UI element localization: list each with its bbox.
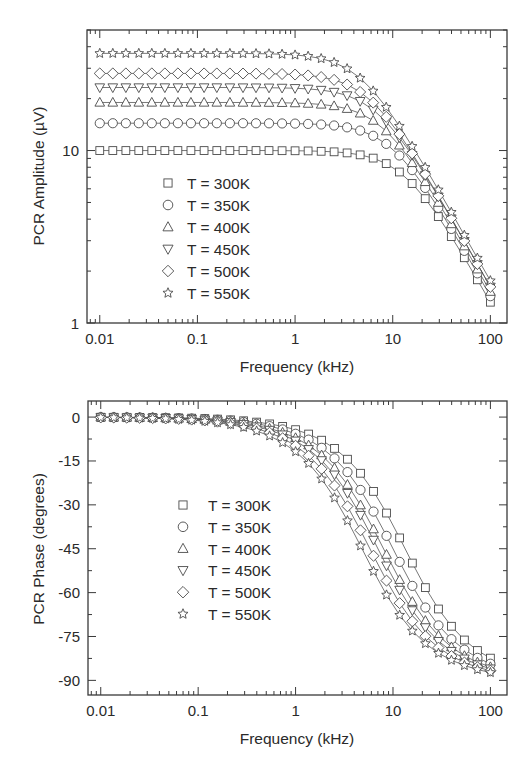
- triangle-down-marker-icon: [160, 84, 170, 93]
- square-marker-icon: [239, 147, 247, 155]
- diamond-marker-icon: [290, 69, 301, 80]
- series-line: [100, 88, 491, 287]
- legend-label: T = 400K: [208, 541, 272, 558]
- triangle-down-marker-icon: [108, 84, 118, 93]
- triangle-up-marker-icon: [160, 97, 170, 106]
- square-marker-icon: [344, 455, 352, 463]
- star-marker-icon: [330, 493, 340, 502]
- triangle-down-marker-icon: [95, 84, 105, 93]
- y-tick-label: -90: [58, 672, 80, 689]
- diamond-marker-icon: [185, 68, 196, 79]
- square-marker-icon: [421, 584, 429, 592]
- star-marker-icon: [121, 48, 131, 57]
- triangle-up-marker-icon: [408, 597, 418, 606]
- circle-marker-icon: [369, 507, 378, 516]
- diamond-marker-icon: [94, 68, 105, 79]
- circle-marker-icon: [317, 120, 326, 129]
- circle-marker-icon: [264, 119, 273, 128]
- square-marker-icon: [408, 559, 416, 567]
- star-marker-icon: [238, 48, 248, 57]
- triangle-up-marker-icon: [186, 97, 196, 106]
- square-marker-icon: [357, 469, 365, 477]
- square-marker-icon: [179, 501, 187, 509]
- circle-marker-icon: [238, 119, 247, 128]
- legend-label: T = 300K: [208, 497, 272, 514]
- triangle-up-marker-icon: [147, 97, 157, 106]
- square-marker-icon: [370, 487, 378, 495]
- x-tick-label: 1: [291, 330, 299, 347]
- square-marker-icon: [226, 147, 234, 155]
- y-tick-label: -60: [58, 584, 80, 601]
- y-axis-title: PCR Phase (degrees): [30, 473, 47, 625]
- square-marker-icon: [395, 168, 403, 176]
- star-marker-icon: [343, 516, 353, 525]
- triangle-up-marker-icon: [199, 97, 209, 106]
- diamond-marker-icon: [329, 480, 340, 491]
- circle-marker-icon: [434, 621, 443, 630]
- triangle-up-marker-icon: [369, 524, 379, 533]
- circle-marker-icon: [290, 119, 299, 128]
- triangle-up-marker-icon: [355, 108, 365, 117]
- triangle-up-marker-icon: [108, 97, 118, 106]
- triangle-down-marker-icon: [264, 84, 274, 93]
- circle-marker-icon: [356, 485, 365, 494]
- square-marker-icon: [304, 147, 312, 155]
- circle-marker-icon: [95, 119, 104, 128]
- star-marker-icon: [407, 141, 417, 150]
- star-marker-icon: [186, 48, 196, 57]
- star-marker-icon: [395, 121, 405, 130]
- diamond-marker-icon: [355, 86, 366, 97]
- y-axis-title: PCR Amplitude (µV): [30, 106, 47, 245]
- star-marker-icon: [147, 48, 157, 57]
- series-line: [100, 102, 491, 291]
- square-marker-icon: [148, 147, 156, 155]
- circle-marker-icon: [186, 119, 195, 128]
- circle-marker-icon: [163, 200, 173, 210]
- triangle-down-marker-icon: [121, 84, 131, 93]
- y-tick-label: -45: [58, 540, 80, 557]
- diamond-marker-icon: [250, 68, 261, 79]
- square-marker-icon: [383, 509, 391, 517]
- legend-label: T = 500K: [187, 263, 251, 280]
- circle-marker-icon: [277, 119, 286, 128]
- star-marker-icon: [251, 49, 261, 58]
- series-line: [101, 417, 491, 670]
- star-marker-icon: [356, 541, 366, 550]
- square-marker-icon: [265, 147, 273, 155]
- square-marker-icon: [356, 151, 364, 159]
- x-tick-label: 100: [478, 702, 503, 719]
- star-marker-icon: [290, 50, 300, 59]
- triangle-up-marker-icon: [121, 97, 131, 106]
- triangle-down-marker-icon: [238, 84, 248, 93]
- triangle-down-marker-icon: [355, 97, 365, 106]
- square-marker-icon: [135, 147, 143, 155]
- triangle-up-marker-icon: [173, 97, 183, 106]
- circle-marker-icon: [212, 119, 221, 128]
- diamond-marker-icon: [303, 70, 314, 81]
- square-marker-icon: [331, 444, 339, 452]
- square-marker-icon: [200, 147, 208, 155]
- y-tick-label: 1: [71, 315, 79, 332]
- tick-labels: 0.010.1110100110: [62, 142, 503, 347]
- diamond-marker-icon: [355, 525, 366, 536]
- y-tick-label: -30: [58, 496, 80, 513]
- circle-marker-icon: [121, 119, 130, 128]
- square-marker-icon: [396, 534, 404, 542]
- legend-label: T = 550K: [208, 606, 272, 623]
- triangle-up-marker-icon: [212, 97, 222, 106]
- star-marker-icon: [199, 48, 209, 57]
- square-marker-icon: [382, 160, 390, 168]
- circle-marker-icon: [356, 126, 365, 135]
- circle-marker-icon: [160, 119, 169, 128]
- legend-label: T = 400K: [187, 219, 251, 236]
- diamond-marker-icon: [381, 575, 392, 586]
- triangle-down-marker-icon: [251, 84, 261, 93]
- triangle-up-marker-icon: [290, 98, 300, 107]
- square-marker-icon: [96, 147, 104, 155]
- diamond-marker-icon: [162, 265, 174, 277]
- star-marker-icon: [178, 609, 188, 619]
- triangle-up-marker-icon: [95, 97, 105, 106]
- legend-label: T = 450K: [187, 241, 251, 258]
- phase-chart: 0.010.11101000-15-30-45-60-75-90 T = 300…: [0, 386, 528, 772]
- triangle-up-marker-icon: [251, 97, 261, 106]
